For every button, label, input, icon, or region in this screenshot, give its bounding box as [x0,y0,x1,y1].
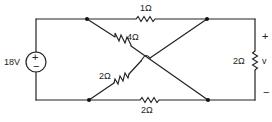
output-minus-sign: − [263,86,269,98]
node-top-right [205,17,209,21]
resistor-2ohm-diag [114,73,129,84]
bottom-branch: 2Ω [36,98,255,116]
resistor-2ohm-bottom-label: 2Ω [141,105,153,115]
source-label: 18V [4,57,20,67]
resistor-2ohm-diag-label: 2Ω [99,71,111,81]
resistor-4ohm-label: 4Ω [127,32,139,42]
resistor-1ohm [136,17,155,22]
output-plus-sign: + [262,30,268,42]
node-top-left [85,17,89,21]
circuit-diagram: + − 18V 1Ω 2Ω 2Ω + v − 4Ω [0,0,272,122]
top-branch: 1Ω [36,3,255,22]
right-branch: 2Ω + v − [233,19,269,100]
output-voltage-label: v [262,56,267,66]
source-minus-sign: − [33,60,39,72]
voltage-source: + − 18V [4,51,46,72]
resistor-1ohm-label: 1Ω [140,3,152,13]
node-bottom-right [206,98,210,102]
resistor-2ohm-bottom [140,98,159,103]
resistor-2ohm-load-label: 2Ω [233,56,245,66]
node-bottom-left [87,98,91,102]
resistor-2ohm-load [253,51,258,70]
